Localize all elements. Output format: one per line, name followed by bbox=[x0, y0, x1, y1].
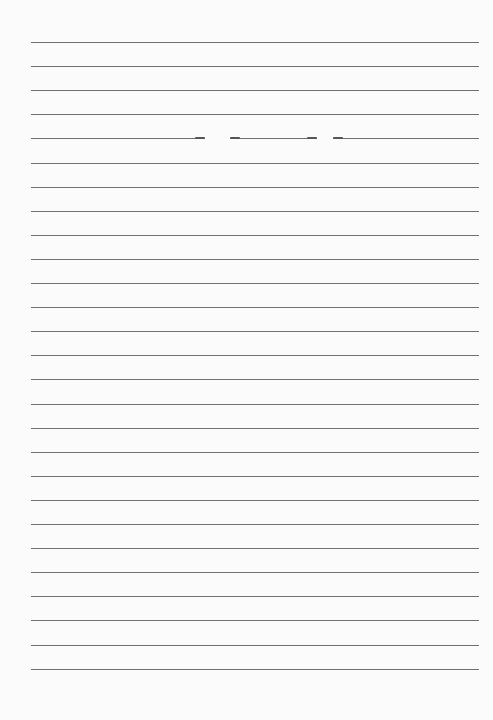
ruled-line bbox=[31, 187, 479, 188]
ruled-line bbox=[31, 307, 479, 308]
ruled-line bbox=[31, 331, 479, 332]
line-gap bbox=[205, 137, 230, 140]
ruled-line bbox=[31, 500, 479, 501]
ink-smudge bbox=[333, 137, 343, 139]
ink-smudge bbox=[195, 137, 205, 139]
ruled-line bbox=[31, 548, 479, 549]
ruled-line bbox=[31, 524, 479, 525]
ruled-line bbox=[31, 283, 479, 284]
ruled-line bbox=[31, 669, 479, 670]
ruled-line bbox=[31, 404, 479, 405]
ruled-line bbox=[31, 90, 479, 91]
ruled-line bbox=[31, 114, 479, 115]
ruled-line bbox=[31, 572, 479, 573]
lined-paper-sheet bbox=[0, 0, 493, 720]
ruled-line bbox=[31, 645, 479, 646]
ruled-line bbox=[31, 138, 479, 139]
ruled-line bbox=[31, 211, 479, 212]
ruled-line bbox=[31, 355, 479, 356]
line-gap bbox=[317, 137, 333, 140]
ruled-line bbox=[31, 428, 479, 429]
ruled-line bbox=[31, 620, 479, 621]
ruled-line bbox=[31, 452, 479, 453]
ruled-line bbox=[31, 476, 479, 477]
ink-smudge bbox=[230, 137, 240, 139]
ruled-line bbox=[31, 259, 479, 260]
ink-smudge bbox=[307, 137, 317, 139]
ruled-line bbox=[31, 163, 479, 164]
ruled-line bbox=[31, 42, 479, 43]
ruled-line bbox=[31, 66, 479, 67]
ruled-line bbox=[31, 235, 479, 236]
ruled-line bbox=[31, 379, 479, 380]
ruled-line bbox=[31, 596, 479, 597]
